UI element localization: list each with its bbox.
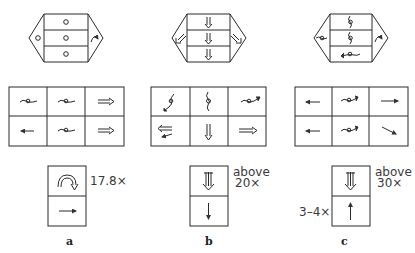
panel-a-grid — [9, 87, 124, 146]
panel-b-caption: b — [205, 235, 213, 248]
diagram-canvas — [0, 0, 415, 253]
panel-c-stack-left-label: 3–4× — [299, 206, 330, 218]
double-arrow-right-icon — [239, 127, 257, 134]
wavy-circle-arrow-icon — [341, 126, 358, 132]
double-arrow-left-split-icon — [158, 125, 172, 137]
wavy-circle-arrow-icon — [341, 96, 358, 102]
panel-c-hexagon — [314, 14, 388, 62]
panel-a-stack — [48, 166, 86, 226]
double-arrow-down-icon — [205, 124, 212, 140]
spiral-vertical-icon — [207, 92, 211, 111]
panel-b-stack-label-line2: 20× — [235, 177, 260, 189]
wavy-circle-arrow-icon — [241, 97, 260, 103]
double-arrow-down-icon — [205, 49, 212, 60]
spiral-vertical-icon — [349, 16, 353, 28]
wavy-circle-arrow-left-icon — [341, 52, 360, 58]
circle-icon — [64, 52, 69, 57]
double-arrow-down-icon — [205, 17, 212, 28]
panel-b-grid — [151, 87, 266, 146]
spiral-diagonal-icon — [164, 94, 174, 111]
double-arrow-down-striped-icon — [203, 172, 214, 190]
wavy-circle-icon — [20, 99, 37, 103]
wavy-circle-icon — [58, 99, 75, 103]
curved-arrow-icon — [375, 37, 382, 42]
panel-c-grid — [295, 87, 408, 146]
circle-icon — [64, 36, 69, 41]
wavy-circle-icon — [58, 128, 75, 132]
double-arrow-down-right-icon — [231, 34, 241, 43]
double-arrow-down-left-icon — [176, 34, 186, 43]
panel-a-caption: a — [66, 235, 73, 248]
curved-arrow-icon — [91, 37, 98, 42]
panel-b-stack — [190, 166, 228, 226]
double-arrow-right-icon — [98, 98, 114, 105]
panel-c-caption: c — [341, 235, 348, 248]
circle-icon — [64, 20, 69, 25]
double-arrow-down-striped-icon — [345, 172, 356, 190]
panel-c-stack-label-line2: 30× — [377, 177, 402, 189]
panel-a-stack-label: 17.8× — [90, 175, 127, 187]
wavy-circle-icon — [316, 36, 327, 40]
hollow-curved-arrow-icon — [58, 175, 78, 190]
panel-a-hexagon — [29, 14, 103, 62]
circle-icon — [36, 36, 41, 41]
arrow-down-right-icon — [382, 127, 396, 134]
panel-c-stack — [332, 166, 370, 226]
panel-b-hexagon — [172, 14, 246, 62]
spiral-vertical-icon — [349, 32, 353, 44]
double-arrow-down-icon — [205, 33, 212, 44]
double-arrow-right-icon — [98, 127, 114, 134]
